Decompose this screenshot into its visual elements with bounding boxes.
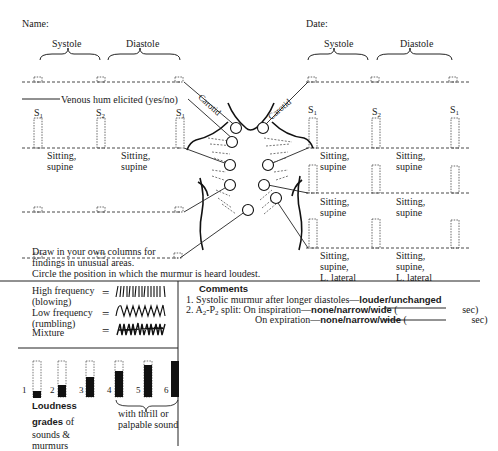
low-frequency-label: Low frequency(rumbling) bbox=[32, 307, 93, 329]
low-frequency-pattern bbox=[116, 305, 165, 316]
right-row1-col2: Sitting,supine bbox=[396, 150, 425, 172]
grade-3-label: 3 bbox=[79, 385, 84, 396]
date-field[interactable] bbox=[336, 14, 466, 28]
auscultation-points bbox=[225, 123, 282, 216]
mixture-label: Mixture bbox=[32, 327, 64, 338]
date-label: Date: bbox=[306, 18, 328, 29]
s1-label-right-a: S1 bbox=[308, 104, 317, 119]
grade-1-label: 1 bbox=[22, 385, 27, 396]
draw-note: Draw in your own columns for findings in… bbox=[32, 246, 156, 268]
systole-brace-left bbox=[40, 48, 100, 60]
grade-5-label: 5 bbox=[136, 385, 141, 396]
right-row3-col1: Sitting,supine,L. lateral bbox=[320, 250, 356, 283]
equals-sign-1: = bbox=[102, 287, 109, 298]
s1-label-left-b: S1 bbox=[176, 107, 185, 122]
mixture-pattern bbox=[117, 323, 165, 335]
venous-hum-label: Venous hum elicited (yes/no) bbox=[61, 94, 178, 105]
high-frequency-pattern bbox=[116, 286, 165, 297]
diastole-label-left: Diastole bbox=[126, 38, 159, 49]
systole-label-left: Systole bbox=[52, 38, 81, 49]
loudness-caption: Loudness grades of sounds & murmurs bbox=[32, 400, 77, 451]
systole-brace-right bbox=[308, 48, 368, 60]
s2-label-left: S2 bbox=[96, 107, 105, 122]
s1-label-left-a: S1 bbox=[34, 107, 43, 122]
pointer-lines bbox=[180, 148, 308, 258]
frequency-patterns bbox=[116, 286, 165, 335]
expiration-options[interactable]: none/narrow/wide bbox=[320, 314, 401, 325]
grade-6-label: 6 bbox=[164, 385, 169, 396]
systole-label-right: Systole bbox=[324, 38, 353, 49]
right-row2-col2: Sitting,supine bbox=[396, 196, 425, 218]
s2-label-right: S2 bbox=[372, 106, 381, 121]
diastole-brace-left bbox=[108, 48, 180, 60]
left-position-label-2: Sitting, supine bbox=[121, 150, 150, 172]
grade-4-label: 4 bbox=[107, 385, 112, 396]
circle-note: Circle the position in which the murmur … bbox=[32, 268, 260, 279]
comment-item-3: On expiration—none/narrow/wide ( sec) bbox=[255, 314, 487, 325]
left-position-label-1: Sitting, supine bbox=[47, 150, 76, 172]
right-row2-col1: Sitting,supine bbox=[320, 196, 349, 218]
comments-title: Comments bbox=[199, 283, 248, 294]
thrill-caption: with thrill or palpable sound bbox=[118, 408, 178, 430]
right-row3-col2: Sitting,supine,L. lateral bbox=[396, 250, 432, 283]
loudness-bars bbox=[33, 361, 179, 398]
high-frequency-label: High frequency(blowing) bbox=[32, 285, 94, 307]
equals-sign-3: = bbox=[102, 325, 109, 336]
grade-2-label: 2 bbox=[50, 385, 55, 396]
right-row1-col1: Sitting,supine bbox=[320, 150, 349, 172]
equals-sign-2: = bbox=[102, 308, 109, 319]
diastole-label-right: Diastole bbox=[400, 38, 433, 49]
name-field[interactable] bbox=[60, 14, 210, 28]
diastole-brace-right bbox=[377, 48, 452, 60]
name-label: Name: bbox=[22, 18, 49, 29]
s1-label-right-b: S1 bbox=[450, 104, 459, 119]
